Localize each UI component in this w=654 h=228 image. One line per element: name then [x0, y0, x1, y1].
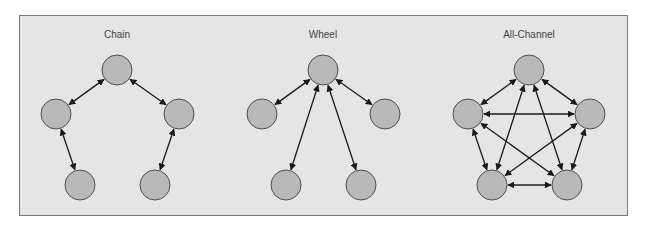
network-all-channel: All-Channel: [453, 29, 605, 200]
edge-top-right: [130, 79, 166, 104]
network-title-all-channel: All-Channel: [503, 29, 555, 40]
edge-top-left: [69, 79, 104, 104]
edge-right-bottom-right: [160, 129, 174, 170]
node-left: [453, 99, 483, 129]
edges-wheel: [275, 79, 372, 170]
nodes-chain: [41, 55, 194, 200]
edge-left-bottom-left: [473, 129, 487, 170]
edge-left-bottom-right: [481, 123, 554, 175]
edge-hub-bottom-right: [328, 85, 356, 170]
node-right: [575, 99, 605, 129]
communication-networks-diagram: Chain Wheel All-Channel: [0, 0, 654, 228]
network-wheel: Wheel: [247, 29, 400, 200]
node-right: [164, 99, 194, 129]
network-chain: Chain: [41, 29, 194, 200]
edge-right-bottom-left: [505, 123, 577, 175]
edges-chain: [61, 79, 174, 170]
node-bottom-left: [477, 170, 507, 200]
node-hub: [308, 55, 338, 85]
node-top: [514, 55, 544, 85]
edge-right-bottom-right: [572, 129, 585, 170]
edge-hub-left: [275, 79, 310, 104]
node-right: [370, 99, 400, 129]
network-title-wheel: Wheel: [309, 29, 337, 40]
nodes-all-channel: [453, 55, 605, 200]
edge-top-right: [542, 79, 577, 104]
node-left: [247, 99, 277, 129]
edge-top-left: [481, 79, 516, 104]
node-bottom-right: [552, 170, 582, 200]
network-title-chain: Chain: [104, 29, 130, 40]
node-bottom-left: [271, 170, 301, 200]
node-left: [41, 99, 71, 129]
edge-hub-right: [336, 79, 372, 104]
node-bottom-right: [140, 170, 170, 200]
nodes-wheel: [247, 55, 400, 200]
edges-all-channel: [473, 79, 585, 185]
edge-top-bottom-right: [534, 85, 562, 170]
edge-top-bottom-left: [497, 85, 524, 170]
edge-left-bottom-left: [61, 129, 75, 170]
node-bottom-left: [65, 170, 95, 200]
node-bottom-right: [346, 170, 376, 200]
node-top: [102, 55, 132, 85]
edge-hub-bottom-left: [291, 85, 318, 170]
